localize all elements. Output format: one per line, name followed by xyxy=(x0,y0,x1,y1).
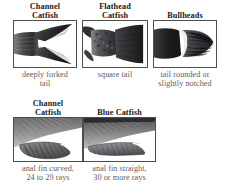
forked-tail-drawing xyxy=(14,21,76,67)
square-tail-drawing xyxy=(83,21,147,67)
heading-line-1: Flathead xyxy=(82,2,148,11)
caption-line-2: 24 to 29 rays xyxy=(13,173,83,182)
heading-channel-catfish-anal-fin: Channel Catfish xyxy=(13,96,83,117)
channel-catfish-tail-illustration xyxy=(13,20,77,68)
caption-channel-catfish-anal-fin: anal fin curved, 24 to 29 rays xyxy=(13,162,83,183)
caption-blue-catfish-anal-fin: anal fin straight, 30 or more rays xyxy=(83,162,156,183)
heading-line-1: Blue Catfish xyxy=(83,108,156,117)
flathead-catfish-tail-illustration xyxy=(82,20,148,68)
cell-blue-catfish-anal-fin: Blue Catfish xyxy=(83,96,156,183)
catfish-identification-chart: Channel Catfish xyxy=(0,0,230,188)
straight-anal-fin-drawing xyxy=(84,118,155,161)
cell-channel-catfish-anal-fin: Channel Catfish xyxy=(13,96,83,183)
caption-channel-catfish-tail: deeply forked tail xyxy=(13,68,77,89)
caption-line-1: deeply forked xyxy=(13,70,77,79)
heading-line-1: Channel xyxy=(13,2,77,11)
caption-line-1: anal fin straight, xyxy=(83,164,156,173)
caption-flathead-catfish-tail: square tail xyxy=(82,68,148,79)
bullhead-tail-illustration xyxy=(153,20,217,68)
heading-line-1: Bullheads xyxy=(153,11,217,20)
tail-shape-row: Channel Catfish xyxy=(0,0,230,100)
caption-line-2: tail xyxy=(13,79,77,88)
cell-bullhead-tail: Bullheads xyxy=(153,0,217,89)
rounded-tail-drawing xyxy=(154,21,216,67)
heading-line-2: Catfish xyxy=(82,11,148,20)
heading-bullhead-tail: Bullheads xyxy=(153,0,217,20)
caption-bullhead-tail: tail rounded or slightly notched xyxy=(153,68,217,89)
caption-line-1: anal fin curved, xyxy=(13,164,83,173)
caption-line-2: slightly notched xyxy=(153,79,217,88)
heading-line-2: Catfish xyxy=(13,11,77,20)
blue-catfish-anal-fin-illustration xyxy=(83,117,156,162)
heading-line-1: Channel xyxy=(13,99,83,108)
caption-line-1: square tail xyxy=(82,70,148,79)
heading-flathead-catfish-tail: Flathead Catfish xyxy=(82,0,148,20)
heading-blue-catfish-anal-fin: Blue Catfish xyxy=(83,96,156,117)
cell-channel-catfish-tail: Channel Catfish xyxy=(13,0,77,89)
caption-line-2: 30 or more rays xyxy=(83,173,156,182)
cell-flathead-catfish-tail: Flathead Catfish xyxy=(82,0,148,79)
anal-fin-row: Channel Catfish xyxy=(0,96,230,188)
caption-line-1: tail rounded or xyxy=(153,70,217,79)
heading-line-2: Catfish xyxy=(13,108,83,117)
channel-catfish-anal-fin-illustration xyxy=(13,117,83,162)
curved-anal-fin-drawing xyxy=(14,118,82,161)
heading-channel-catfish-tail: Channel Catfish xyxy=(13,0,77,20)
